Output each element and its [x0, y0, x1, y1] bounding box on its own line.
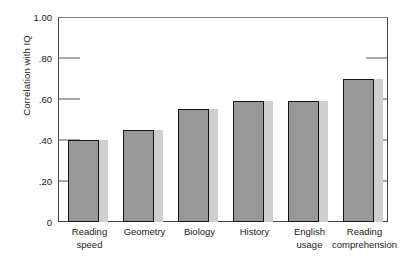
x-axis-labels: ReadingspeedGeometryBiologyHistoryEnglis…: [58, 226, 388, 272]
bar-face: [288, 101, 319, 222]
bar: [288, 93, 328, 222]
y-tick-label: .40: [4, 135, 52, 146]
y-tick-label: 1.00: [4, 12, 52, 23]
y-axis-title: Correlation with IQ: [21, 6, 32, 146]
bar: [178, 101, 218, 222]
x-axis-label: Readingcomprehension: [326, 226, 404, 251]
bar: [343, 71, 383, 223]
bar: [68, 132, 108, 222]
y-tick-label: .20: [4, 176, 52, 187]
bar-chart: Correlation with IQ 0.20.40.60.801.00 Re…: [0, 0, 404, 272]
bar-face: [233, 101, 264, 222]
y-tick-label: 0: [4, 217, 52, 228]
bar-face: [178, 109, 209, 222]
y-tick-label: .80: [4, 53, 52, 64]
bar: [123, 122, 163, 222]
bar-face: [343, 79, 374, 223]
y-tick-label: .60: [4, 94, 52, 105]
bars-layer: [58, 17, 388, 222]
x-axis-label-line: speed: [51, 239, 129, 252]
bar: [233, 93, 273, 222]
x-axis-label-line: Reading: [326, 226, 404, 239]
bar-face: [68, 140, 99, 222]
bar-face: [123, 130, 154, 222]
x-axis-label-line: comprehension: [326, 239, 404, 252]
